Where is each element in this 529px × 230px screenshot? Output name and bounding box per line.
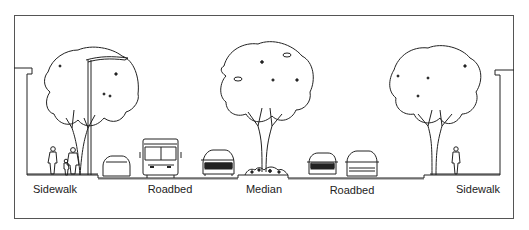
car-icon <box>201 150 234 176</box>
building-right <box>495 70 514 175</box>
bus-icon <box>140 139 181 178</box>
ground-line <box>27 174 500 179</box>
pickup-truck-icon <box>345 151 379 176</box>
pedestrians-icon <box>48 147 79 175</box>
tree-right-icon <box>390 46 481 175</box>
tree-median-icon <box>221 42 314 172</box>
building-left <box>14 68 32 175</box>
car-icon <box>103 156 130 176</box>
label-roadbed-left: Roadbed <box>148 183 193 195</box>
label-sidewalk-left: Sidewalk <box>33 183 77 195</box>
label-sidewalk-right: Sidewalk <box>456 183 500 195</box>
label-median: Median <box>246 183 282 195</box>
label-roadbed-right: Roadbed <box>330 184 375 196</box>
street-section-drawing <box>0 0 529 230</box>
car-icon <box>307 153 338 174</box>
pedestrian-icon <box>452 147 460 174</box>
